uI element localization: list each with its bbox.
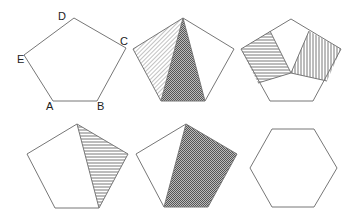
label-e: E xyxy=(17,53,24,65)
pentagon-labeled: D C E A B xyxy=(17,10,128,112)
label-d: D xyxy=(58,10,66,22)
label-c: C xyxy=(120,35,128,47)
pentagon-one-triangle xyxy=(27,124,128,208)
hexagon xyxy=(250,129,337,207)
pentagon-quadrilateral xyxy=(136,124,237,207)
label-b: B xyxy=(97,100,104,112)
label-a: A xyxy=(46,100,54,112)
pentagon-two-triangles xyxy=(133,18,234,101)
geometry-diagram: D C E A B xyxy=(0,0,360,221)
pentagon-two-quads xyxy=(241,19,341,101)
